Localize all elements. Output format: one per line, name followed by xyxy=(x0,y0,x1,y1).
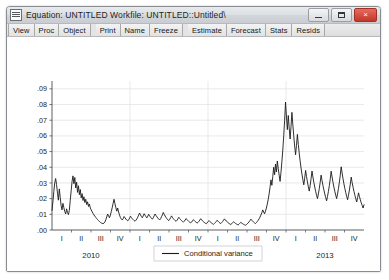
window-controls: × xyxy=(308,8,377,22)
toolbar-button-stats[interactable]: Stats xyxy=(266,24,293,36)
minimize-icon xyxy=(309,9,328,21)
x-axis-quarter-label: IV xyxy=(117,234,124,243)
toolbar-button-freeze[interactable]: Freeze xyxy=(150,24,183,36)
toolbar-button-forecast[interactable]: Forecast xyxy=(227,24,266,36)
toolbar-button-estimate[interactable]: Estimate xyxy=(188,24,227,36)
y-axis-tick-label: .03 xyxy=(37,179,47,188)
x-axis-quarter-label: III xyxy=(332,234,338,243)
x-axis-quarter-label: I xyxy=(139,234,141,243)
x-axis-quarter-label: I xyxy=(217,234,219,243)
x-axis-year-label: 2010 xyxy=(82,251,100,260)
maximize-button[interactable] xyxy=(331,8,352,22)
toolbar-button-print[interactable]: Print xyxy=(96,24,121,36)
desktop-background: Equation: UNTITLED Workfile: UNTITLED::U… xyxy=(0,0,389,280)
y-axis-tick-label: .08 xyxy=(37,100,47,109)
toolbar-button-proc[interactable]: Proc xyxy=(35,24,60,36)
toolbar-button-object[interactable]: Object xyxy=(59,24,90,36)
y-axis-tick-label: .02 xyxy=(37,194,47,203)
y-axis-tick-label: .05 xyxy=(37,147,47,156)
toolbar-button-name[interactable]: Name xyxy=(121,24,150,36)
conditional-variance-chart[interactable]: .00.01.02.03.04.05.06.07.08.09IIIIIIIVII… xyxy=(7,37,380,271)
y-axis-tick-label: .07 xyxy=(37,116,47,125)
minimize-button[interactable] xyxy=(308,8,329,22)
x-axis-quarter-label: III xyxy=(254,234,260,243)
x-axis-quarter-label: I xyxy=(295,234,297,243)
equation-window: Equation: UNTITLED Workfile: UNTITLED::U… xyxy=(6,6,381,272)
y-axis-tick-label: .06 xyxy=(37,131,47,140)
x-axis-quarter-label: II xyxy=(313,234,317,243)
x-axis-quarter-label: II xyxy=(235,234,239,243)
toolbar-button-view[interactable]: View xyxy=(8,24,35,36)
x-axis-quarter-label: II xyxy=(79,234,83,243)
x-axis-quarter-label: IV xyxy=(273,234,280,243)
toolbar-button-resids[interactable]: Resids xyxy=(292,24,325,36)
maximize-icon xyxy=(332,9,351,21)
equation-toolbar: View Proc Object Print Name Freeze Estim… xyxy=(7,24,380,37)
x-axis-quarter-label: II xyxy=(157,234,161,243)
chart-svg: .00.01.02.03.04.05.06.07.08.09IIIIIIIVII… xyxy=(7,37,380,271)
x-axis-year-label: 2013 xyxy=(316,251,333,260)
window-title-bar[interactable]: Equation: UNTITLED Workfile: UNTITLED::U… xyxy=(7,7,380,24)
y-axis-tick-label: .01 xyxy=(37,210,47,219)
x-axis-quarter-label: I xyxy=(61,234,63,243)
system-menu-icon[interactable] xyxy=(10,9,22,21)
y-axis-tick-label: .09 xyxy=(37,84,47,93)
toolbar-filler xyxy=(325,24,380,36)
x-axis-quarter-label: IV xyxy=(351,234,358,243)
legend-label: Conditional variance xyxy=(184,249,253,258)
close-icon: × xyxy=(355,9,376,21)
y-axis-tick-label: .00 xyxy=(37,226,47,235)
window-title: Equation: UNTITLED Workfile: UNTITLED::U… xyxy=(26,10,308,20)
y-axis-tick-label: .04 xyxy=(37,163,47,172)
x-axis-quarter-label: III xyxy=(176,234,182,243)
close-button[interactable]: × xyxy=(354,8,377,22)
x-axis-quarter-label: III xyxy=(98,234,104,243)
equation-client-area: .00.01.02.03.04.05.06.07.08.09IIIIIIIVII… xyxy=(7,37,380,271)
x-axis-quarter-label: IV xyxy=(195,234,202,243)
